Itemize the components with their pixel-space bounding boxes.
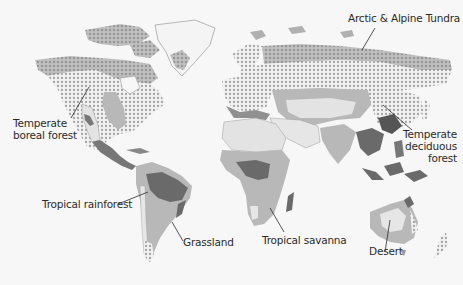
label-desert: Desert [369,245,403,257]
label-tropical-rainforest: Tropical rainforest [42,198,132,210]
label-arctic-alpine-tundra: Arctic & Alpine Tundra [348,12,460,24]
north-america [35,20,215,170]
label-temperate-deciduous-line3: forest [387,152,457,164]
leader-savanna [270,208,284,232]
label-temperate-deciduous-line2: deciduous [387,140,457,152]
label-temperate-boreal-line2: boreal forest [13,129,77,141]
label-grassland: Grassland [183,236,234,248]
africa [220,118,294,226]
label-tropical-savanna: Tropical savanna [262,234,347,246]
label-temperate-boreal-line1: Temperate [13,117,67,129]
leader-grassland [172,222,183,241]
leader-arctic [362,28,375,50]
biome-map: Arctic & Alpine Tundra Temperate boreal … [0,0,463,285]
label-temperate-deciduous-line1: Temperate [387,128,457,140]
